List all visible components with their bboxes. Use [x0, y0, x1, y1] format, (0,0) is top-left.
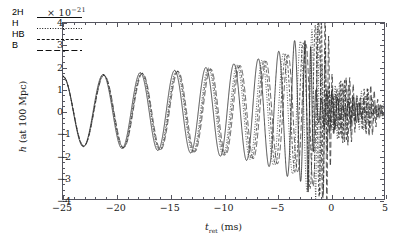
tick-mark: [63, 140, 65, 141]
y-tick-label: 0: [57, 106, 63, 117]
tick-mark: [63, 101, 65, 102]
tick-mark: [257, 23, 258, 25]
tick-mark: [63, 162, 65, 163]
tick-mark: [382, 106, 384, 107]
tick-mark: [246, 23, 247, 25]
legend-label: 2H: [12, 7, 34, 17]
legend-line-swatch: [36, 29, 83, 38]
tick-mark: [382, 79, 384, 80]
tick-mark: [382, 129, 384, 130]
legend-item-hb[interactable]: HB: [12, 28, 83, 39]
waveform-svg: [63, 23, 384, 199]
tick-mark: [63, 168, 65, 169]
tick-mark: [380, 45, 384, 46]
tick-mark: [380, 112, 384, 113]
tick-mark: [278, 23, 279, 27]
tick-mark: [149, 23, 150, 25]
tick-mark: [160, 23, 161, 25]
y-axis-symbol: h: [17, 146, 28, 152]
tick-mark: [380, 23, 384, 24]
tick-mark: [300, 23, 301, 25]
tick-mark: [382, 173, 384, 174]
tick-mark: [382, 151, 384, 152]
tick-mark: [382, 62, 384, 63]
tick-mark: [268, 23, 269, 25]
tick-mark: [382, 168, 384, 169]
tick-mark: [225, 23, 226, 27]
gravitational-wave-chart: × 10−21 −25−20−15−10−505 −4−3−2−101234 t…: [0, 0, 412, 245]
y-tick-label: −3: [57, 172, 71, 183]
tick-mark: [181, 197, 182, 199]
x-tick-label: 5: [382, 202, 388, 213]
legend-label: H: [12, 18, 34, 28]
tick-mark: [214, 23, 215, 25]
legend-item-2h[interactable]: 2H: [12, 6, 83, 17]
tick-mark: [382, 118, 384, 119]
tick-mark: [321, 23, 322, 25]
tick-mark: [63, 79, 65, 80]
x-tick-label: −10: [213, 202, 233, 213]
tick-mark: [382, 84, 384, 85]
x-axis-title: tret (ms): [62, 221, 385, 234]
tick-mark: [149, 197, 150, 199]
tick-mark: [311, 23, 312, 25]
tick-mark: [364, 197, 365, 199]
tick-mark: [63, 184, 65, 185]
tick-mark: [117, 195, 118, 199]
tick-mark: [63, 56, 65, 57]
x-tick-label: −15: [160, 202, 180, 213]
tick-mark: [63, 123, 65, 124]
x-axis-subscript: ret: [209, 227, 218, 234]
x-tick-label: −20: [106, 202, 126, 213]
tick-mark: [382, 56, 384, 57]
y-tick-label: −2: [57, 150, 71, 161]
legend-item-h[interactable]: H: [12, 17, 83, 28]
tick-mark: [203, 197, 204, 199]
y-tick-label: 2: [57, 61, 63, 72]
tick-mark: [225, 195, 226, 199]
tick-mark: [380, 90, 384, 91]
tick-mark: [257, 197, 258, 199]
x-tick-label: −5: [270, 202, 284, 213]
legend-line-swatch: [36, 7, 83, 16]
tick-mark: [85, 197, 86, 199]
x-tick-label: 0: [328, 202, 334, 213]
tick-mark: [268, 197, 269, 199]
tick-mark: [375, 23, 376, 25]
tick-mark: [63, 62, 65, 63]
tick-mark: [106, 23, 107, 25]
tick-mark: [192, 23, 193, 25]
tick-mark: [203, 23, 204, 25]
tick-mark: [74, 197, 75, 199]
y-axis-unit: (at 100 Mpc): [17, 81, 28, 143]
tick-mark: [354, 197, 355, 199]
tick-mark: [382, 73, 384, 74]
waveform-series-hb: [63, 23, 384, 197]
legend-line-swatch: [36, 40, 83, 49]
tick-mark: [375, 197, 376, 199]
tick-mark: [171, 23, 172, 27]
plot-canvas: [63, 23, 384, 199]
tick-mark: [106, 197, 107, 199]
tick-mark: [354, 23, 355, 25]
tick-mark: [380, 134, 384, 135]
tick-mark: [343, 23, 344, 25]
tick-mark: [181, 23, 182, 25]
tick-mark: [63, 118, 65, 119]
tick-mark: [160, 197, 161, 199]
tick-mark: [138, 197, 139, 199]
tick-mark: [382, 51, 384, 52]
y-axis-title: h (at 100 Mpc): [17, 57, 28, 177]
tick-mark: [214, 197, 215, 199]
legend-item-b[interactable]: B: [12, 39, 83, 50]
tick-mark: [289, 23, 290, 25]
tick-mark: [289, 197, 290, 199]
tick-mark: [95, 23, 96, 25]
tick-mark: [364, 23, 365, 25]
tick-mark: [63, 112, 67, 113]
tick-mark: [138, 23, 139, 25]
tick-mark: [235, 23, 236, 25]
tick-mark: [386, 195, 387, 199]
tick-mark: [382, 190, 384, 191]
y-tick-label: 1: [57, 83, 63, 94]
